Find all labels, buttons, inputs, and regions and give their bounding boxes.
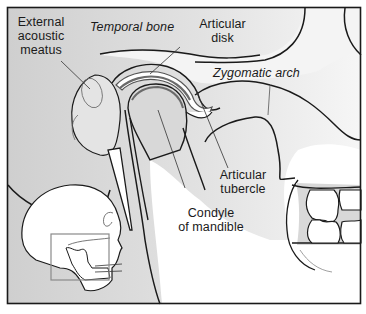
label-condyle-of-mandible: Condyle of mandible — [175, 206, 247, 234]
label-line: Condyle — [175, 206, 247, 220]
label-line: of mandible — [175, 220, 247, 234]
label-line: meatus — [14, 43, 68, 57]
label-line: disk — [195, 31, 250, 45]
label-articular-disk: Articular disk — [195, 17, 250, 45]
label-external-acoustic-meatus: External acoustic meatus — [14, 15, 68, 57]
label-line: External — [14, 15, 68, 29]
label-line: Articular — [195, 17, 250, 31]
label-temporal-bone: Temporal bone — [90, 20, 174, 34]
label-line: tubercle — [213, 182, 273, 196]
label-zygomatic-arch: Zygomatic arch — [213, 66, 300, 80]
label-line: acoustic — [14, 29, 68, 43]
label-line: Articular — [213, 168, 273, 182]
label-articular-tubercle: Articular tubercle — [213, 168, 273, 196]
tmj-diagram: External acoustic meatus Temporal bone A… — [0, 0, 366, 314]
